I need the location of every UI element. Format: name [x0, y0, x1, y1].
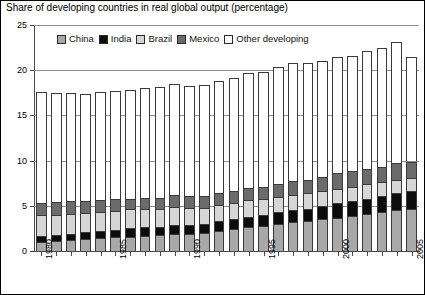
- bar-segment-brazil-1986: [125, 209, 136, 228]
- bar-segment-india-2001: [347, 201, 358, 215]
- bar-1985[interactable]: [110, 25, 121, 251]
- x-tick-mark-1981: [56, 251, 57, 256]
- bar-segment-other-developing-1991: [199, 85, 210, 196]
- bar-segment-mexico-1995: [258, 187, 269, 199]
- bar-segment-mexico-1984: [95, 200, 106, 212]
- x-tick-mark-1984: [101, 251, 102, 256]
- bar-segment-mexico-1999: [317, 177, 328, 191]
- bar-1989[interactable]: [169, 25, 180, 251]
- bar-segment-brazil-1981: [51, 215, 62, 235]
- y-tick-label-5: 5: [5, 202, 27, 211]
- x-tick-mark-2004: [397, 251, 398, 256]
- bar-segment-other-developing-1989: [169, 84, 180, 195]
- bar-1986[interactable]: [125, 25, 136, 251]
- bar-segment-india-1987: [140, 227, 151, 235]
- y-tick-label-15: 15: [5, 111, 27, 120]
- bar-segment-mexico-1997: [288, 181, 299, 195]
- bar-segment-mexico-1980: [36, 203, 47, 215]
- x-tick-mark-1998: [308, 251, 309, 256]
- bar-1999[interactable]: [317, 25, 328, 251]
- bar-segment-brazil-1997: [288, 195, 299, 210]
- bar-segment-mexico-1983: [80, 201, 91, 213]
- bar-segment-brazil-1996: [273, 197, 284, 212]
- bar-segment-india-1995: [258, 215, 269, 226]
- bar-segment-china-1997: [288, 222, 299, 251]
- bar-1982[interactable]: [66, 25, 77, 251]
- bar-1992[interactable]: [214, 25, 225, 251]
- bar-1996[interactable]: [273, 25, 284, 251]
- bar-segment-china-1998: [303, 221, 314, 251]
- bar-2000[interactable]: [332, 25, 343, 251]
- bar-segment-china-1993: [229, 229, 240, 251]
- x-tick-mark-1980: [41, 251, 42, 256]
- bar-2003[interactable]: [377, 25, 388, 251]
- bar-segment-india-1988: [155, 227, 166, 235]
- bar-segment-other-developing-1995: [258, 72, 269, 187]
- legend-label: Other developing: [236, 34, 308, 44]
- legend-swatch-icon-mexico: [177, 35, 186, 44]
- legend-item-india[interactable]: India: [99, 34, 132, 44]
- legend-label: Brazil: [148, 34, 172, 44]
- bar-1997[interactable]: [288, 25, 299, 251]
- bar-1995[interactable]: [258, 25, 269, 251]
- bar-segment-brazil-2001: [347, 187, 358, 201]
- bar-segment-other-developing-1985: [110, 91, 121, 199]
- bar-segment-india-2003: [377, 196, 388, 212]
- x-tick-mark-2000: [338, 251, 339, 256]
- bar-segment-china-1992: [214, 231, 225, 251]
- x-tick-mark-1991: [204, 251, 205, 256]
- bar-1984[interactable]: [95, 25, 106, 251]
- legend-item-mexico[interactable]: Mexico: [177, 34, 219, 44]
- bar-1988[interactable]: [155, 25, 166, 251]
- legend-item-other-developing[interactable]: Other developing: [224, 34, 308, 44]
- bar-segment-india-1994: [243, 217, 254, 228]
- bar-segment-brazil-1990: [184, 208, 195, 225]
- bar-segment-other-developing-1984: [95, 92, 106, 200]
- x-tick-mark-1999: [323, 251, 324, 256]
- legend-swatch-icon-india: [99, 35, 108, 44]
- bar-1993[interactable]: [229, 25, 240, 251]
- chart-container: Share of developing countries in real gl…: [0, 0, 425, 295]
- bar-2002[interactable]: [362, 25, 373, 251]
- bar-segment-other-developing-2005: [406, 57, 417, 162]
- bar-2004[interactable]: [391, 25, 402, 251]
- bar-segment-brazil-1992: [214, 205, 225, 221]
- legend-item-brazil[interactable]: Brazil: [136, 34, 172, 44]
- bar-segment-brazil-1987: [140, 209, 151, 228]
- bar-segment-india-1997: [288, 210, 299, 222]
- legend-item-china[interactable]: China: [57, 34, 94, 44]
- bar-segment-other-developing-1993: [229, 78, 240, 191]
- x-tick-mark-1989: [175, 251, 176, 256]
- bar-segment-mexico-1987: [140, 198, 151, 209]
- bar-1990[interactable]: [184, 25, 195, 251]
- bar-segment-mexico-1994: [243, 188, 254, 201]
- y-tick-label-20: 20: [5, 66, 27, 75]
- bar-1983[interactable]: [80, 25, 91, 251]
- x-tick-mark-2002: [367, 251, 368, 256]
- bar-1987[interactable]: [140, 25, 151, 251]
- bar-segment-other-developing-1986: [125, 90, 136, 198]
- bar-segment-mexico-2001: [347, 171, 358, 186]
- bar-1991[interactable]: [199, 25, 210, 251]
- bar-segment-other-developing-2003: [377, 48, 388, 167]
- bar-segment-india-1991: [199, 224, 210, 233]
- bar-segment-india-1982: [66, 234, 77, 240]
- bar-segment-india-1998: [303, 209, 314, 222]
- x-tick-mark-2001: [352, 251, 353, 256]
- bar-1994[interactable]: [243, 25, 254, 251]
- bar-2005[interactable]: [406, 25, 417, 251]
- bar-segment-brazil-1998: [303, 193, 314, 208]
- bar-segment-mexico-1989: [169, 195, 180, 207]
- bar-segment-china-1989: [169, 234, 180, 251]
- bar-segment-other-developing-1998: [303, 63, 314, 180]
- legend-label: Mexico: [189, 34, 219, 44]
- bar-segment-other-developing-2004: [391, 42, 402, 163]
- bar-1980[interactable]: [36, 25, 47, 251]
- x-tick-label-1990: 1990: [193, 239, 202, 259]
- x-tick-label-2000: 2000: [342, 239, 351, 259]
- bar-1981[interactable]: [51, 25, 62, 251]
- bar-segment-india-1990: [184, 225, 195, 234]
- bar-1998[interactable]: [303, 25, 314, 251]
- bar-2001[interactable]: [347, 25, 358, 251]
- bar-segment-china-2004: [391, 210, 402, 251]
